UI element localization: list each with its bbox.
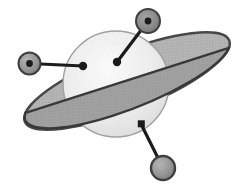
illustration-canvas <box>0 0 240 190</box>
satellite-top-right-center-dot <box>145 18 152 25</box>
marker-dot-left <box>79 62 87 70</box>
ringed-planet-illustration <box>0 0 240 190</box>
pin-bottom-right <box>138 120 175 180</box>
marker-square-bottom-right <box>138 120 145 127</box>
satellite-left-center-dot <box>26 60 33 67</box>
satellite-bottom-right-texture <box>153 158 174 179</box>
marker-dot-center <box>113 58 121 66</box>
